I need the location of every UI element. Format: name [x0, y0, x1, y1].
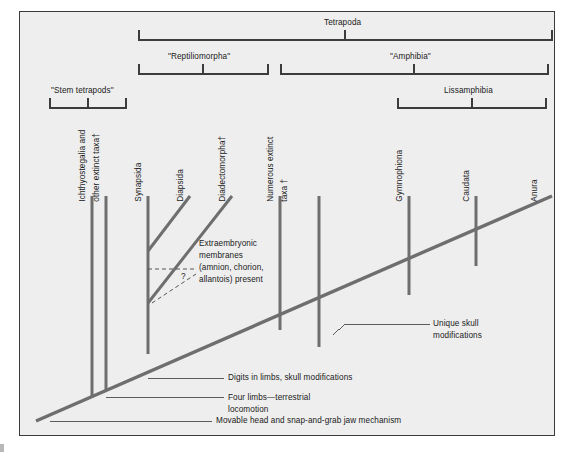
clade-label-lissamphibia: Lissamphibia: [444, 86, 493, 97]
taxon-label-diadectomorpha: Diadectomorpha†: [218, 136, 229, 202]
annotation-extraembryonic-line1: Extraembryonic: [199, 238, 314, 250]
annotation-extraembryonic-line3: (amnion, chorion,: [199, 262, 314, 274]
clade-label-stem-tetrapods: "Stem tetrapods": [51, 86, 114, 97]
annotation-extraembryonic-line4: allantois) present: [199, 274, 314, 286]
annotation-four-limbs: Four limbs—terrestrial locomotion: [228, 392, 368, 416]
taxon-label-synapsida: Synapsida: [134, 163, 145, 202]
annotation-digits-in-limbs: Digits in limbs, skull modifications: [228, 373, 352, 384]
annotation-unique-skull-line2: modifications: [433, 330, 543, 342]
annotation-movable-head: Movable head and snap-and-grab jaw mecha…: [216, 416, 401, 427]
corner-registration-mark: [0, 444, 4, 452]
annotation-four-limbs-line2: locomotion: [228, 404, 368, 416]
taxon-label-diapsida: Diapsida: [176, 169, 187, 202]
taxon-label-anura: Anura: [530, 179, 541, 201]
annotation-four-limbs-line1: Four limbs—terrestrial: [228, 392, 368, 404]
taxon-label-numerous-extinct-line2: taxa †: [280, 179, 291, 202]
branch-diapsida: [148, 196, 190, 251]
annotation-extraembryonic-line2: membranes: [199, 250, 314, 262]
cladogram-lines: [0, 0, 572, 455]
taxon-label-ichthyostegalia-line1: Ichthyostegalia and: [78, 130, 89, 202]
annotation-unique-skull-modifications: Unique skull modifications: [433, 318, 543, 342]
annotation-unique-skull-line1: Unique skull: [433, 318, 543, 330]
annotation-extraembryonic-membranes: Extraembryonic membranes (amnion, chorio…: [199, 238, 314, 286]
clade-label-reptiliomorpha: "Reptiliomorpha": [168, 52, 230, 63]
clade-label-amphibia: "Amphibia": [390, 52, 431, 63]
leader-unique-skull: [333, 324, 430, 335]
annotation-uncertainty-marker: ?: [181, 272, 186, 283]
taxon-label-numerous-extinct-line1: Numerous extinct: [266, 137, 277, 202]
taxon-label-caudata: Caudata: [462, 170, 473, 202]
clade-label-tetrapoda: Tetrapoda: [324, 18, 361, 29]
taxon-label-ichthyostegalia-line2: other extinct taxa†: [92, 133, 103, 201]
taxon-label-gymnophiona: Gymnophiona: [395, 150, 406, 202]
cladogram-figure: Tetrapoda "Reptiliomorpha" "Amphibia" "S…: [0, 0, 572, 455]
